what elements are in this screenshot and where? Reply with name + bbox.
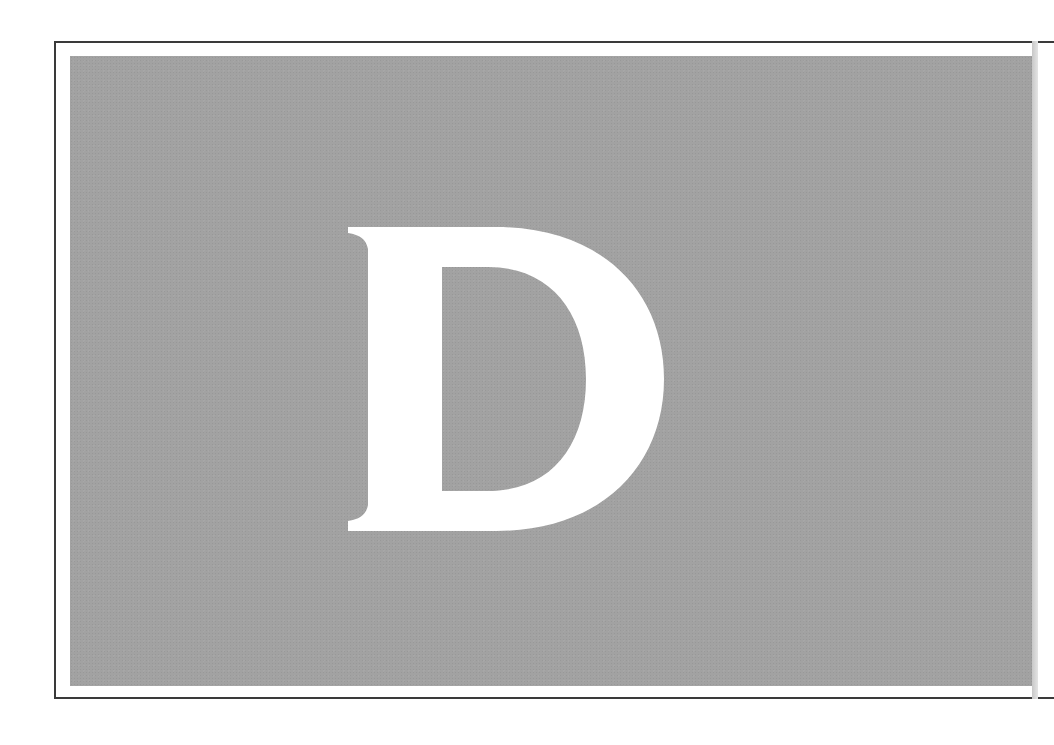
drop-cap-letter: D: [346, 221, 666, 533]
drop-cap-glyph: [346, 221, 666, 533]
page-edge-strip: [1032, 41, 1038, 699]
